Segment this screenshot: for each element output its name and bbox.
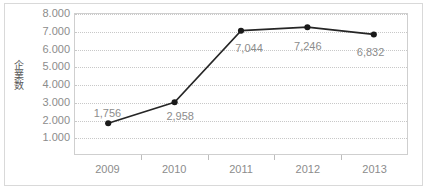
x-axis-tick-label: 2010	[162, 163, 186, 175]
data-point-label: 2,958	[166, 110, 194, 122]
x-axis-tick	[208, 155, 209, 160]
y-axis-tick-labels: 8.000 7.000 6.000 5.000 4.000 3.000 2.00…	[22, 0, 70, 191]
data-point-marker	[371, 31, 377, 37]
x-axis-tick-label: 2009	[95, 163, 119, 175]
y-axis-tick-label: 7.000	[22, 25, 70, 37]
x-axis-tick	[274, 155, 275, 160]
data-point-label: 7,246	[294, 40, 322, 52]
line-chart: 企業数 8.000 7.000 6.000 5.000 4.000 3.000 …	[0, 0, 428, 191]
data-point-marker	[304, 24, 310, 30]
x-axis-tick	[141, 155, 142, 160]
y-axis-tick-label: 3.000	[22, 96, 70, 108]
data-point-label: 7,044	[235, 42, 263, 54]
x-axis-tick-label: 2011	[229, 163, 253, 175]
x-axis-tick-label: 2013	[362, 163, 386, 175]
data-point-marker	[238, 28, 244, 34]
x-axis-tick-label: 2012	[296, 163, 320, 175]
data-point-marker	[105, 120, 111, 126]
data-point-label: 6,832	[357, 46, 385, 58]
y-axis-tick-label: 8.000	[22, 7, 70, 19]
data-point-label: 1,756	[94, 107, 122, 119]
y-axis-tick-label: 4.000	[22, 78, 70, 90]
y-axis-tick-label: 2.000	[22, 114, 70, 126]
x-axis-tick-labels: 20092010201120122013	[74, 163, 408, 183]
x-axis-ticks	[74, 155, 408, 161]
x-axis-tick	[341, 155, 342, 160]
y-axis-tick-label: 1.000	[22, 131, 70, 143]
y-axis-title: 企業数	[5, 60, 23, 90]
y-axis-tick-label: 6.000	[22, 43, 70, 55]
data-point-marker	[172, 99, 178, 105]
plot-area	[74, 13, 408, 155]
y-axis-tick-label: 5.000	[22, 60, 70, 72]
series-line-企業数	[75, 14, 407, 154]
